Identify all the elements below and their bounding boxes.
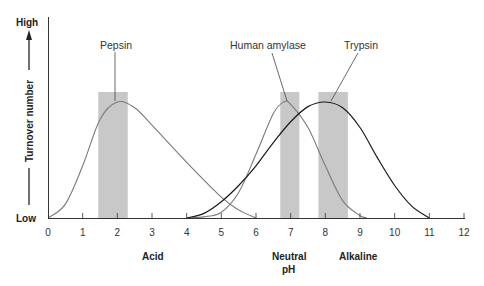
x-tick-label: 2 (115, 227, 121, 238)
amylase-leader (272, 53, 287, 101)
alkaline-label: Alkaline (339, 251, 378, 262)
x-tick-label: 9 (357, 227, 363, 238)
pepsin-label: Pepsin (100, 39, 132, 51)
neutral-label: Neutral (272, 251, 307, 262)
x-tick-label: 1 (80, 227, 86, 238)
enzyme-ph-chart: 0123456789101112 High Low Turnover numbe… (0, 0, 484, 286)
x-tick-label: 3 (149, 227, 155, 238)
ph-label: pH (282, 264, 295, 275)
arrow-up-icon (26, 30, 32, 40)
x-tick-label: 4 (184, 227, 190, 238)
x-tick-label: 0 (45, 227, 51, 238)
x-tick-label: 5 (219, 227, 225, 238)
y-axis-title: Turnover number (24, 80, 35, 162)
x-tick-label: 7 (288, 227, 294, 238)
y-low-label: Low (16, 213, 36, 224)
x-tick-label: 11 (424, 227, 435, 238)
trypsin-label: Trypsin (344, 39, 378, 51)
x-tick-label: 12 (458, 227, 470, 238)
curve-pepsin (48, 101, 256, 218)
acid-label: Acid (142, 251, 164, 262)
amylase-label: Human amylase (230, 39, 306, 51)
shaded-bar-trypsin (318, 92, 347, 218)
curve-trypsin (187, 102, 430, 218)
y-high-label: High (16, 17, 38, 28)
x-tick-label: 8 (323, 227, 329, 238)
shaded-bar-pepsin (98, 92, 127, 218)
x-tick-label: 6 (253, 227, 259, 238)
x-tick-label: 10 (389, 227, 401, 238)
